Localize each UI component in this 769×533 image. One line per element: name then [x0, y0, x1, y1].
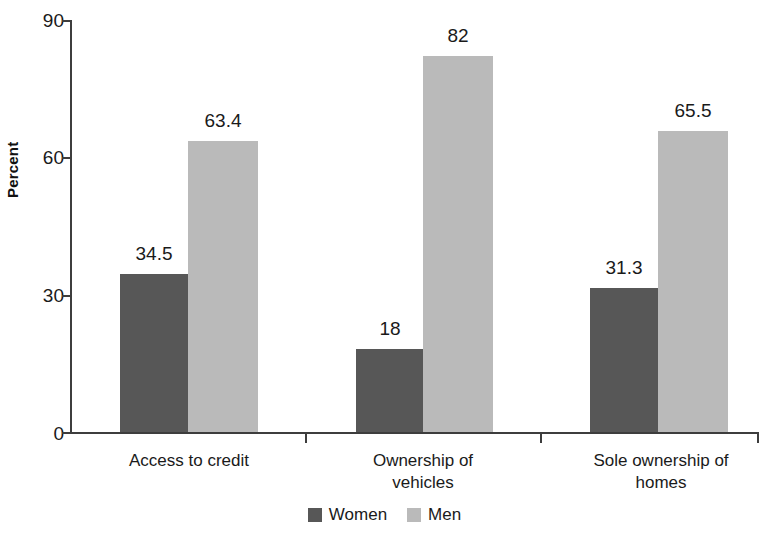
y-tick-mark-90: [62, 20, 71, 22]
legend-item-men[interactable]: Men: [407, 506, 461, 523]
bar-label-men-access-to-credit: 63.4: [167, 111, 279, 130]
legend-item-women[interactable]: Women: [308, 506, 387, 523]
y-tick-30: 30: [22, 286, 64, 305]
y-tick-label-90: 90: [30, 11, 64, 30]
x-axis-line: [70, 432, 759, 434]
legend-swatch-women-icon: [308, 508, 322, 522]
y-tick-60: 60: [22, 148, 64, 167]
legend-label-men: Men: [428, 506, 461, 523]
y-tick-90: 90: [22, 11, 64, 30]
x-category-label-sole-ownership-of-homes: Sole ownership of homes: [556, 450, 766, 495]
bar-women-ownership-of-vehicles[interactable]: [356, 349, 423, 432]
bar-women-sole-ownership-of-homes[interactable]: [590, 288, 658, 432]
legend-swatch-men-icon: [407, 508, 421, 522]
bar-women-access-to-credit[interactable]: [120, 274, 188, 432]
y-tick-label-30: 30: [30, 286, 64, 305]
bar-men-sole-ownership-of-homes[interactable]: [658, 131, 728, 432]
x-category-line: Access to credit: [88, 450, 290, 472]
bar-label-men-sole-ownership-of-homes: 65.5: [637, 101, 749, 120]
x-category-line: homes: [556, 472, 766, 494]
x-tick-mark-2: [540, 434, 542, 443]
bar-men-ownership-of-vehicles[interactable]: [423, 56, 493, 432]
x-category-label-ownership-of-vehicles: Ownership of vehicles: [322, 450, 524, 495]
y-tick-label-0: 0: [30, 424, 64, 443]
chart-legend: Women Men: [0, 506, 769, 523]
x-category-line: Sole ownership of: [556, 450, 766, 472]
y-tick-0: 0: [22, 424, 64, 443]
legend-label-women: Women: [329, 506, 387, 523]
y-tick-mark-30: [62, 295, 71, 297]
x-category-line: vehicles: [322, 472, 524, 494]
x-category-line: Ownership of: [322, 450, 524, 472]
bar-label-men-ownership-of-vehicles: 82: [402, 26, 514, 45]
x-tick-mark-1: [305, 434, 307, 443]
bar-chart: Percent 90 60 30 0 34.5 63.4 18 82 31.3 …: [0, 0, 769, 533]
bar-men-access-to-credit[interactable]: [188, 141, 258, 432]
y-tick-mark-60: [62, 157, 71, 159]
y-tick-mark-0: [62, 432, 71, 434]
y-tick-label-60: 60: [30, 148, 64, 167]
x-category-label-access-to-credit: Access to credit: [88, 450, 290, 472]
y-axis-title: Percent: [4, 68, 26, 198]
x-tick-mark-3: [757, 434, 759, 443]
y-axis-line: [70, 20, 72, 434]
